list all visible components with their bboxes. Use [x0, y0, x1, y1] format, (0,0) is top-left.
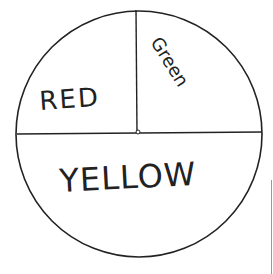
section-label-green: Green [147, 33, 194, 90]
center-pivot [136, 130, 140, 134]
vertical-divider [136, 10, 137, 133]
section-label-yellow: YELLOW [57, 155, 197, 200]
spinner-diagram: RED Green YELLOW [0, 0, 273, 274]
edge-line [271, 180, 272, 274]
section-label-red: RED [38, 82, 100, 116]
